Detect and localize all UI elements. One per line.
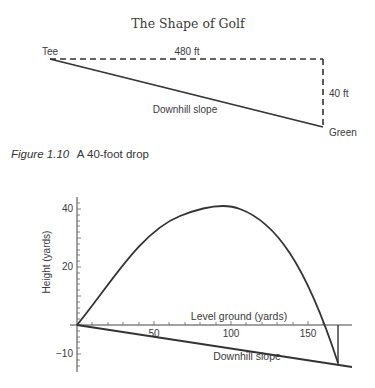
ball-trajectory-curve [77,206,338,363]
distance-label: 480 ft [174,46,199,57]
tee-label: Tee [42,46,59,57]
x-tick-100: 100 [223,328,240,339]
x-tick-150: 150 [300,328,317,339]
x-axis-label: Level ground (yards) [191,310,287,322]
figure-caption: Figure 1.10 A 40-foot drop [11,148,149,160]
figure-number: Figure 1.10 [11,148,69,160]
running-title: The Shape of Golf [131,16,246,31]
downhill-slope-line [50,59,323,127]
y-axis-minor-ticks [77,203,81,366]
trajectory-chart: 40 20 −10 Height (yards) 50 100 150 Leve… [41,197,352,372]
drop-diagram: Tee 480 ft 40 ft Downhill slope Green [42,46,357,138]
drop-label: 40 ft [329,88,349,99]
y-tick-minus-10: −10 [56,348,73,359]
figure-canvas: The Shape of Golf Tee 480 ft 40 ft Downh… [0,0,375,388]
y-axis-label: Height (yards) [41,231,52,294]
chart-slope-label: Downhill slope [213,350,281,362]
green-label: Green [329,127,357,138]
slope-label: Downhill slope [153,104,218,115]
y-tick-20: 20 [62,261,74,272]
y-tick-40: 40 [62,203,74,214]
caption-text: A 40-foot drop [77,148,149,160]
